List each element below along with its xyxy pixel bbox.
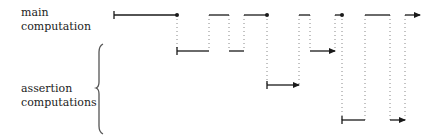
assertion-computation-segments	[177, 47, 405, 124]
checkpoint-dot-icon	[265, 13, 269, 17]
assertion-segment	[177, 47, 209, 55]
dotted-transitions	[177, 15, 405, 120]
main-computation-segments	[114, 11, 420, 19]
main-segment	[335, 13, 344, 17]
checkpoint-dot-icon	[175, 13, 179, 17]
computation-timeline-diagram	[0, 0, 440, 136]
checkpoint-dot-icon	[340, 13, 344, 17]
assertion-segment	[267, 81, 299, 89]
main-segment	[244, 13, 269, 17]
assertion-brace	[96, 44, 103, 134]
assertion-segment	[342, 116, 365, 124]
main-segment	[114, 11, 179, 19]
